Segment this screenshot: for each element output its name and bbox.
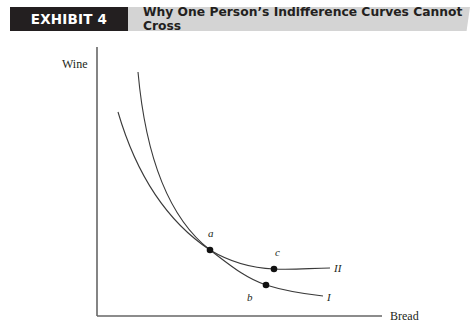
point-a-label: a bbox=[208, 227, 214, 239]
point-b-marker bbox=[263, 282, 270, 289]
point-a-marker bbox=[207, 247, 214, 254]
curve-I-label: I bbox=[326, 291, 332, 303]
indifference-chart: Wine Bread a c b I II bbox=[0, 0, 472, 335]
curve-II-label: II bbox=[333, 262, 343, 274]
x-axis-label: Bread bbox=[390, 309, 419, 323]
point-c-label: c bbox=[275, 246, 280, 258]
point-c-marker bbox=[271, 266, 278, 273]
point-b-label: b bbox=[247, 291, 253, 303]
indifference-curve-II bbox=[138, 72, 330, 269]
y-axis-label: Wine bbox=[62, 57, 88, 71]
